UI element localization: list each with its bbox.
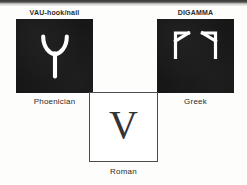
phoenician-glyph-container: [16, 19, 93, 93]
roman-panel: V: [89, 92, 158, 162]
phoenician-vau-glyph: [40, 32, 70, 80]
greek-digamma-glyph-left: [172, 28, 192, 59]
greek-digamma-glyph-right: [199, 28, 219, 59]
phoenician-panel: [16, 19, 93, 93]
greek-bottom-label: Greek: [157, 98, 234, 106]
roman-v-letter: V: [90, 93, 157, 161]
greek-panel: [157, 19, 234, 93]
scan-artifact-band-secondary: [0, 4, 247, 6]
phoenician-top-label: VAU-hook/nail: [16, 9, 93, 16]
phoenician-bottom-label: Phoenician: [16, 98, 93, 106]
greek-top-label: DIGAMMA: [157, 9, 234, 16]
greek-glyph-container: [157, 19, 234, 93]
roman-bottom-label: Roman: [89, 168, 158, 176]
